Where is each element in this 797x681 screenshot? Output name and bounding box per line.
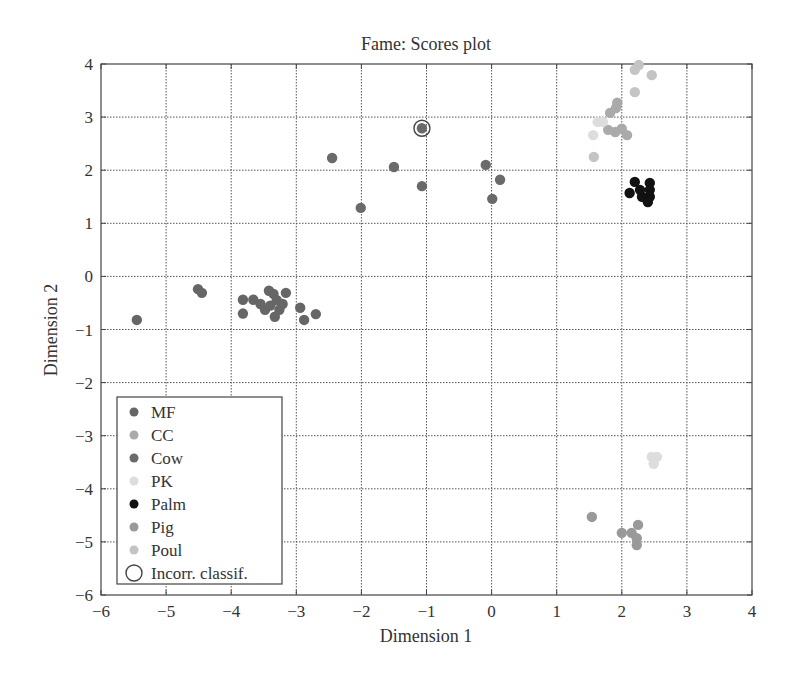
data-point-cc — [622, 130, 632, 140]
data-point-mf — [299, 315, 309, 325]
x-tick-label: −6 — [92, 602, 110, 621]
data-point-cow — [487, 194, 497, 204]
chart-title: Fame: Scores plot — [361, 34, 491, 54]
legend-marker-icon — [130, 500, 139, 509]
data-point-pig — [617, 528, 627, 538]
legend-label: Incorr. classif. — [151, 564, 248, 583]
data-point-pig — [632, 540, 642, 550]
data-point-mf — [197, 288, 207, 298]
legend-label: Palm — [151, 495, 186, 514]
data-point-mf — [272, 295, 282, 305]
x-tick-label: 4 — [748, 602, 757, 621]
data-point-cow — [389, 162, 399, 172]
data-point-poul — [630, 65, 640, 75]
x-tick-label: 1 — [552, 602, 561, 621]
data-point-cow — [417, 181, 427, 191]
legend-marker-icon — [130, 408, 139, 417]
data-point-palm — [624, 188, 634, 198]
x-tick-label: −5 — [157, 602, 175, 621]
data-point-cc — [605, 108, 615, 118]
data-point-mf — [295, 303, 305, 313]
x-tick-label: −3 — [287, 602, 305, 621]
legend-label: MF — [151, 403, 176, 422]
legend-label: Poul — [151, 541, 182, 560]
data-point-poul — [589, 152, 599, 162]
data-point-palm — [643, 197, 653, 207]
y-tick-label: 1 — [85, 214, 94, 233]
data-point-mf — [132, 315, 142, 325]
data-point-cow — [327, 153, 337, 163]
legend-label: CC — [151, 426, 174, 445]
data-point-mf — [238, 295, 248, 305]
y-tick-label: 2 — [85, 161, 94, 180]
data-point-poul — [647, 70, 657, 80]
data-point-pk — [598, 117, 608, 127]
data-point-mf — [311, 309, 321, 319]
y-tick-label: −1 — [75, 321, 93, 340]
data-point-cow — [417, 123, 427, 133]
data-point-cow — [495, 175, 505, 185]
legend-marker-icon — [130, 454, 139, 463]
y-tick-label: 4 — [85, 55, 94, 74]
legend-label: Cow — [151, 449, 184, 468]
y-tick-label: 3 — [85, 108, 94, 127]
x-tick-label: 0 — [487, 602, 496, 621]
data-point-mf — [281, 288, 291, 298]
data-point-pk — [588, 130, 598, 140]
data-point-cow — [356, 203, 366, 213]
x-tick-label: −2 — [352, 602, 370, 621]
y-tick-label: −5 — [75, 533, 93, 552]
x-tick-label: 3 — [683, 602, 692, 621]
legend-marker-icon — [130, 477, 139, 486]
y-tick-label: −4 — [75, 480, 94, 499]
legend-box — [117, 397, 282, 584]
legend-marker-icon — [130, 431, 139, 440]
legend-label: PK — [151, 472, 173, 491]
y-axis-title: Dimension 2 — [41, 284, 61, 377]
legend-label: Pig — [151, 518, 174, 537]
data-point-mf — [238, 308, 248, 318]
data-point-pig — [587, 512, 597, 522]
x-tick-label: −1 — [417, 602, 435, 621]
scores-plot: Fame: Scores plot −6−5−4−3−2−101234 −6−5… — [0, 0, 797, 681]
x-tick-label: 2 — [618, 602, 627, 621]
data-point-pk — [648, 459, 658, 469]
legend-marker-icon — [130, 523, 139, 532]
data-point-cow — [481, 160, 491, 170]
x-axis-title: Dimension 1 — [380, 626, 473, 646]
x-tick-label: −4 — [222, 602, 241, 621]
y-tick-label: 0 — [85, 267, 94, 286]
legend: MFCCCowPKPalmPigPoulIncorr. classif. — [117, 397, 282, 584]
y-tick-label: −2 — [75, 374, 93, 393]
data-point-poul — [630, 87, 640, 97]
legend-marker-icon — [130, 546, 139, 555]
y-tick-label: −6 — [75, 586, 93, 605]
y-tick-label: −3 — [75, 427, 93, 446]
